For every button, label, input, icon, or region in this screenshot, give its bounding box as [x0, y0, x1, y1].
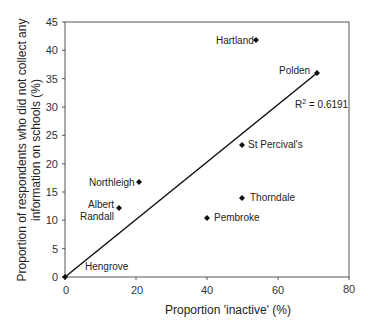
x-tick-label: 80 — [343, 283, 355, 295]
x-axis-title: Proportion 'inactive' (%) — [165, 303, 291, 317]
label-polden: Polden — [279, 65, 310, 76]
plot-area — [65, 22, 349, 277]
y-tick-label: 45 — [46, 16, 58, 28]
y-tick-label: 30 — [46, 101, 58, 113]
label-albert: Albert — [88, 199, 114, 210]
y-tick-label: 0 — [52, 271, 58, 283]
y-tick-label: 20 — [46, 158, 58, 170]
point-st-percivals — [239, 142, 245, 148]
y-tick-label: 5 — [52, 243, 58, 255]
label-st-percivals: St Percival's — [248, 139, 303, 150]
point-albert-randall — [116, 205, 122, 211]
trendline — [65, 73, 317, 277]
y-tick-label: 25 — [46, 129, 58, 141]
point-hartland — [253, 37, 259, 43]
scatter-chart: 0 5 10 15 20 25 30 35 40 45 0 20 40 60 8… — [0, 0, 368, 332]
label-thorndale: Thorndale — [250, 192, 295, 203]
point-pembroke — [204, 215, 210, 221]
point-thorndale — [239, 195, 245, 201]
x-tick-label: 0 — [63, 284, 69, 296]
label-hartland: Hartland — [216, 35, 254, 46]
x-tick-label: 60 — [272, 284, 284, 296]
label-randall: Randall — [80, 211, 114, 222]
y-axis-title-line1: Proportion of respondents who did not co… — [15, 19, 29, 282]
x-tick-label: 20 — [131, 284, 143, 296]
r-squared-annotation: R2 = 0.6191 — [295, 98, 349, 110]
label-hengrove: Hengrove — [85, 261, 129, 272]
point-northleigh — [136, 179, 142, 185]
y-tick-label: 35 — [46, 73, 58, 85]
y-tick-label: 40 — [46, 44, 58, 56]
y-tick-label: 15 — [46, 186, 58, 198]
y-tick-label: 10 — [46, 214, 58, 226]
label-pembroke: Pembroke — [214, 212, 260, 223]
x-tick-label: 40 — [201, 284, 213, 296]
y-axis-title-line2: information on schools (%) — [29, 79, 43, 221]
label-northleigh: Northleigh — [89, 177, 135, 188]
